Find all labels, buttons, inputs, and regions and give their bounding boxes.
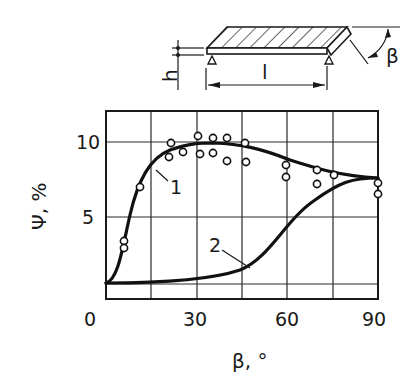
y-axis-title: Ψ, % bbox=[27, 183, 51, 230]
y-tick-5: 5 bbox=[82, 206, 94, 228]
beta-label: β bbox=[386, 44, 399, 68]
chart-figure: h l β bbox=[0, 0, 410, 392]
x-axis-title: β, ° bbox=[232, 349, 267, 373]
curve-2-leader bbox=[222, 250, 250, 268]
x-tick-90: 90 bbox=[362, 308, 386, 330]
beam-diagram: h l β bbox=[158, 27, 400, 90]
curve-1-leader bbox=[156, 170, 168, 181]
curve-1-label: 1 bbox=[170, 176, 182, 198]
y-tick-10: 10 bbox=[76, 131, 100, 153]
x-tick-0: 0 bbox=[84, 308, 96, 330]
l-label: l bbox=[262, 60, 268, 84]
x-tick-60: 60 bbox=[275, 308, 299, 330]
h-label: h bbox=[158, 69, 182, 82]
data-points bbox=[120, 132, 381, 251]
x-tick-30: 30 bbox=[183, 308, 207, 330]
curve-2-label: 2 bbox=[209, 234, 221, 256]
